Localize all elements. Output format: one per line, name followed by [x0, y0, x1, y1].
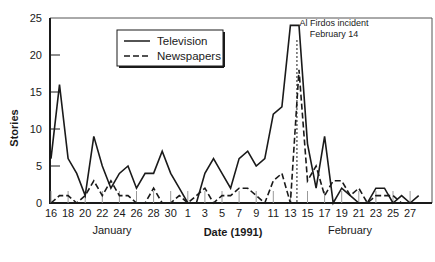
month-label-february: February	[328, 224, 373, 236]
x-tick-label: 19	[336, 207, 348, 219]
x-tick-label: 5	[219, 207, 225, 219]
x-tick-label: 21	[353, 207, 365, 219]
x-tick-label: 24	[113, 207, 125, 219]
plot-area: 0510152025161820222426283013579111315171…	[30, 12, 432, 219]
x-tick-label: 26	[130, 207, 142, 219]
month-label-january: January	[92, 224, 132, 236]
newspapers-series-line	[51, 70, 419, 203]
y-tick-label: 5	[36, 160, 42, 172]
annotation-line1: Al Firdos incident	[299, 18, 369, 28]
x-tick-label: 17	[318, 207, 330, 219]
television-series-line	[51, 25, 419, 203]
x-tick-label: 28	[147, 207, 159, 219]
x-tick-label: 3	[202, 207, 208, 219]
legend: Television Newspapers	[117, 30, 224, 67]
x-tick-label: 7	[236, 207, 242, 219]
y-axis-title: Stories	[8, 109, 20, 146]
y-tick-label: 25	[30, 12, 42, 24]
y-tick-label: 10	[30, 123, 42, 135]
x-tick-label: 20	[79, 207, 91, 219]
y-tick-label: 0	[36, 197, 42, 209]
legend-television-label: Television	[157, 35, 208, 47]
x-tick-label: 1	[185, 207, 191, 219]
x-tick-label: 13	[284, 207, 296, 219]
x-axis-title: Date (1991)	[204, 226, 263, 238]
x-tick-label: 22	[96, 207, 108, 219]
x-tick-label: 23	[370, 207, 382, 219]
x-tick-label: 30	[165, 207, 177, 219]
x-tick-label: 11	[268, 207, 279, 219]
y-tick-label: 15	[30, 86, 42, 98]
x-tick-label: 25	[387, 207, 399, 219]
y-tick-label: 20	[30, 49, 42, 61]
annotation-al-firdos: Al Firdos incident February 14	[299, 18, 369, 39]
x-tick-label: 16	[45, 207, 57, 219]
annotation-line2: February 14	[310, 29, 359, 39]
x-tick-label: 18	[62, 207, 74, 219]
legend-newspapers-label: Newspapers	[157, 50, 221, 62]
x-tick-label: 9	[253, 207, 259, 219]
x-tick-label: 15	[301, 207, 313, 219]
line-chart: 0510152025161820222426283013579111315171…	[0, 0, 435, 262]
x-tick-label: 27	[404, 207, 416, 219]
